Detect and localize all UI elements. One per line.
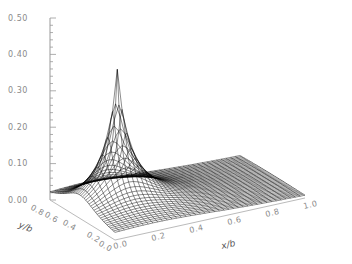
wireframe-mesh (50, 69, 305, 232)
z-axis: 0.50 0.40 0.30 0.20 0.10 0.00 (8, 14, 56, 205)
x-tick-label: 0.2 (150, 231, 166, 243)
z-tick-label: 0.20 (8, 123, 28, 132)
y-tick-label: 0.6 (43, 210, 60, 225)
x-tick-label: 0.0 (112, 239, 128, 251)
y-axis-title: y/b (16, 219, 34, 234)
z-tick-label: 0.50 (8, 14, 28, 23)
z-tick-label: 0.10 (8, 159, 28, 168)
x-tick-label: 0.6 (226, 215, 242, 227)
z-tick-label: 0.40 (8, 50, 28, 59)
x-tick-label: 1.0 (302, 199, 318, 211)
x-axis-title: x/b (219, 238, 236, 251)
z-tick-label: 0.00 (8, 196, 28, 205)
x-tick-label: 0.8 (264, 207, 280, 219)
y-tick-label: 0.4 (61, 218, 78, 233)
y-tick-label: 0.0 (97, 239, 114, 254)
z-tick-label: 0.30 (8, 86, 28, 95)
x-tick-label: 0.4 (188, 223, 204, 235)
surface-plot: 0.50 0.40 0.30 0.20 0.10 0.00 0.0 0.2 0.… (0, 0, 352, 264)
